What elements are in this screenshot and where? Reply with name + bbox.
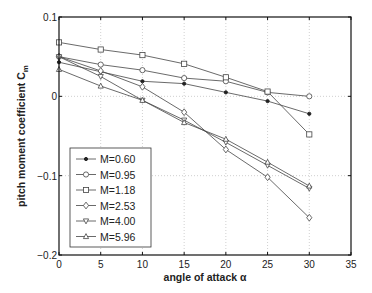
legend-label: M=0.95 — [100, 169, 135, 181]
y-tick-label: −0.1 — [37, 171, 57, 182]
x-tick-labels: 05101520253035 — [56, 259, 357, 270]
legend-label: M=4.00 — [100, 215, 135, 227]
pitch-moment-chart: 05101520253035 −0.2−0.100.1 angle of att… — [0, 0, 372, 293]
x-tick-label: 5 — [98, 259, 104, 270]
x-tick-label: 35 — [345, 259, 357, 270]
legend-label: M=2.53 — [100, 200, 135, 212]
legend: M=0.60M=0.95M=1.18M=2.53M=4.00M=5.96 — [70, 148, 151, 247]
x-tick-label: 30 — [304, 259, 316, 270]
y-tick-label: 0.1 — [43, 12, 57, 23]
x-tick-label: 15 — [179, 259, 191, 270]
x-axis-label: angle of attack α — [164, 271, 247, 283]
y-tick-labels: −0.2−0.100.1 — [37, 12, 57, 261]
legend-label: M=1.18 — [100, 184, 135, 196]
y-tick-label: 0 — [51, 91, 57, 102]
x-tick-label: 0 — [56, 259, 62, 270]
y-axis-label: pitch moment coefficient Cm — [15, 65, 30, 207]
x-tick-label: 10 — [137, 259, 149, 270]
y-tick-label: −0.2 — [37, 250, 57, 261]
x-tick-label: 20 — [220, 259, 232, 270]
legend-label: M=5.96 — [100, 231, 135, 243]
legend-label: M=0.60 — [100, 153, 135, 165]
x-tick-label: 25 — [262, 259, 274, 270]
